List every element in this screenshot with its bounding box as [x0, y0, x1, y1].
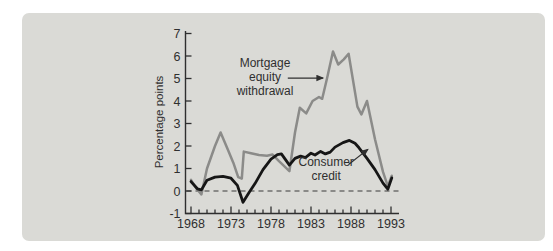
x-tick-label: 1978 — [257, 217, 285, 231]
x-tick-label: 1993 — [377, 217, 405, 231]
y-tick-label: 0 — [174, 185, 181, 199]
mortgage-equity-withdrawal-label-text: equity — [249, 70, 281, 84]
mortgage-equity-withdrawal-label-text: withdrawal — [236, 84, 294, 98]
line-chart: -101234567196819731978198319881993Mortga… — [0, 0, 553, 251]
y-axis-title: Percentage points — [153, 75, 165, 168]
series-line-mortgage-equity-withdrawal — [191, 52, 392, 195]
mortgage-equity-withdrawal-label-text: Mortgage — [240, 56, 291, 70]
x-tick-label: 1968 — [177, 217, 205, 231]
y-tick-label: 3 — [174, 117, 181, 131]
x-tick-label: 1983 — [297, 217, 325, 231]
consumer-credit-label-text: Consumer — [299, 155, 354, 169]
y-tick-label: 2 — [174, 140, 181, 154]
y-tick-label: 5 — [174, 72, 181, 86]
x-tick-label: 1988 — [337, 217, 365, 231]
consumer-credit-label-text: credit — [312, 169, 342, 183]
axes — [186, 31, 400, 214]
x-tick-label: 1973 — [217, 217, 245, 231]
y-tick-label: 6 — [174, 50, 181, 64]
y-tick-label: 7 — [174, 27, 181, 41]
y-tick-label: 1 — [174, 162, 181, 176]
y-tick-label: 4 — [174, 95, 181, 109]
